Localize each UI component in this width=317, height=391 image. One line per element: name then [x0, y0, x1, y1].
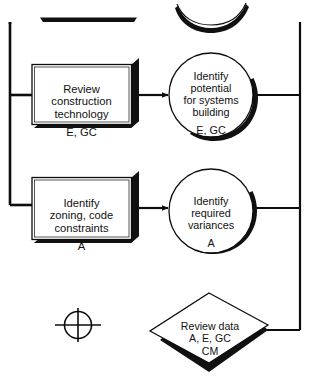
connector-left-bus: [10, 22, 33, 205]
connector-right-bus: [253, 22, 300, 330]
node-identify-potential[interactable]: [169, 53, 258, 141]
node-identify-variances[interactable]: [169, 169, 257, 254]
node-identify-zoning[interactable]: [32, 171, 139, 243]
node-review-data[interactable]: [150, 293, 268, 372]
flowchart-graphics: [0, 0, 317, 391]
node-review-construction[interactable]: [32, 58, 139, 128]
flowchart-canvas: Review construction technologyE, GC Iden…: [0, 0, 317, 391]
crosshair-icon: [55, 308, 101, 342]
clipped-circle-shadow-top: [175, 3, 249, 33]
clipped-rectangle-shadow-top: [40, 18, 137, 23]
